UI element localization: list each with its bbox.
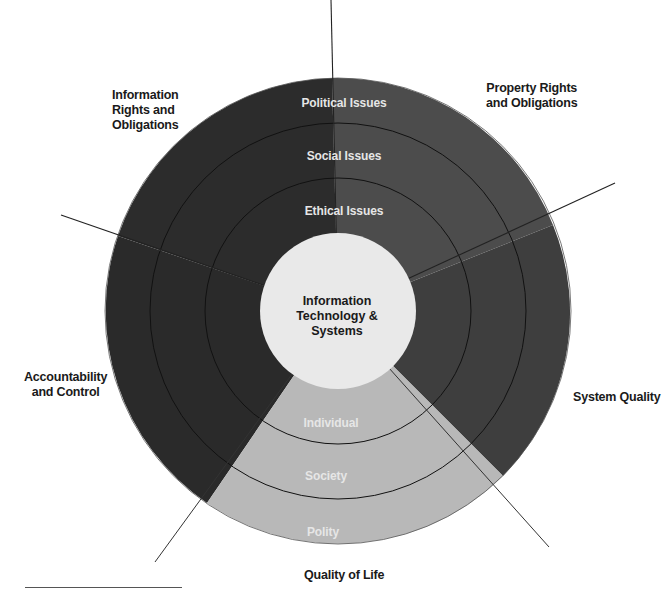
center-label: Information Technology & Systems [296,294,378,339]
footnote-rule [25,587,182,588]
ring-label-social: Social Issues [307,149,382,163]
ring-label-individual: Individual [303,416,358,430]
dimension-info-rights: Information Rights and Obligations [112,88,179,133]
dimension-property-rights: Property Rights and Obligations [486,81,577,111]
dimension-quality-of-life: Quality of Life [304,568,384,583]
ring-label-society: Society [305,469,347,483]
dimension-accountability: Accountability and Control [24,370,107,400]
ring-label-polity: Polity [307,525,339,539]
ring-label-ethical: Ethical Issues [305,204,384,218]
dimension-system-quality: System Quality [573,390,661,405]
ring-label-political: Political Issues [301,96,386,110]
